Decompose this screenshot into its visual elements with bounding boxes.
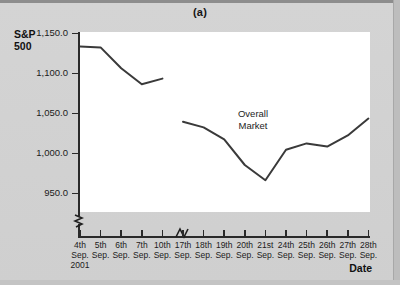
x-tick-mark	[368, 230, 370, 237]
x-tick-mark	[141, 230, 143, 237]
x-tick-label: 28thSep.	[353, 240, 383, 260]
x-tick-mark	[285, 230, 287, 237]
x-tick-mark	[306, 230, 308, 237]
figure-panel: (a) S&P500 950.01,000.01,050.01,100.01,1…	[0, 0, 400, 285]
x-tick-mark	[79, 230, 81, 237]
x-axis-title: Date	[349, 262, 372, 274]
data-line-segment-1	[80, 47, 162, 85]
y-tick-mark	[72, 113, 79, 115]
x-tick-mark	[162, 230, 164, 237]
y-tick-mark	[72, 73, 79, 75]
y-tick-mark	[72, 193, 79, 195]
x-tick-mark	[347, 230, 349, 237]
annotation-line-2: Market	[222, 120, 284, 132]
page-bottom-edge	[0, 280, 400, 285]
chart-title: (a)	[0, 6, 400, 18]
x-tick-mark	[100, 230, 102, 237]
x-tick-mark	[182, 230, 184, 237]
annotation-line-1: Overall	[222, 108, 284, 120]
y-tick-label: 1,150.0	[12, 27, 68, 38]
y-tick-label: 1,050.0	[12, 107, 68, 118]
series-annotation-overall-market: OverallMarket	[222, 108, 284, 132]
y-tick-label: 1,000.0	[12, 147, 68, 158]
y-tick-label: 1,100.0	[12, 67, 68, 78]
y-tick-label: 950.0	[12, 187, 68, 198]
y-axis-break-icon	[73, 214, 85, 228]
page-right-edge	[393, 0, 400, 285]
x-tick-mark	[326, 230, 328, 237]
x-tick-mark	[244, 230, 246, 237]
y-tick-mark	[72, 153, 79, 155]
x-tick-mark	[120, 230, 122, 237]
y-tick-mark	[72, 33, 79, 35]
x-tick-mark	[223, 230, 225, 237]
x-tick-mark	[265, 230, 267, 237]
y-axis-title-line-2: 500	[14, 41, 48, 53]
x-tick-mark	[203, 230, 205, 237]
